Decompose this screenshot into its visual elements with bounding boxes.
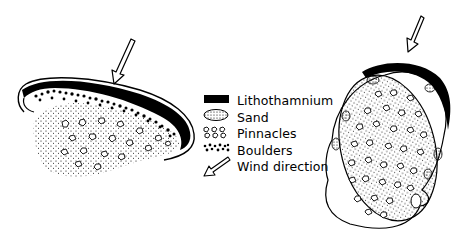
right-reef-small-pinnacle <box>411 194 421 208</box>
legend-item-pinnacles: Pinnacles <box>203 126 353 143</box>
legend: Lithothamnium Sand Pinnacles Boulders Wi… <box>203 93 353 176</box>
left-wind-arrow-icon <box>112 39 135 84</box>
legend-label: Boulders <box>237 144 293 158</box>
legend-label: Wind direction <box>237 160 329 174</box>
left-reef-inner-edge <box>23 98 34 112</box>
right-wind-arrow-icon <box>407 16 424 52</box>
left-reef <box>18 39 194 177</box>
legend-item-boulders: Boulders <box>203 143 353 160</box>
legend-item-lithothamnium: Lithothamnium <box>203 93 353 110</box>
legend-label: Sand <box>237 111 269 125</box>
legend-label: Pinnacles <box>237 127 297 141</box>
legend-label: Lithothamnium <box>237 94 333 108</box>
legend-item-sand: Sand <box>203 110 353 127</box>
legend-item-wind-direction: Wind direction <box>203 159 353 176</box>
